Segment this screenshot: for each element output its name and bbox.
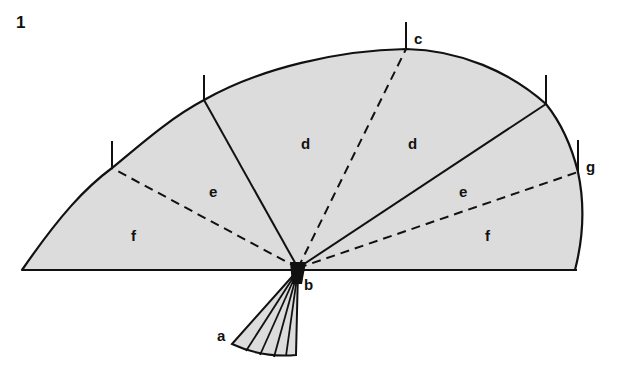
label-c: c (414, 30, 422, 47)
label-e-right: e (459, 183, 467, 200)
label-a: a (217, 327, 226, 344)
label-d-left: d (301, 135, 310, 152)
diagram: 1 c g b a d d e e f f (0, 0, 617, 365)
main-sector (22, 49, 582, 270)
label-g: g (586, 158, 595, 175)
label-d-right: d (408, 135, 417, 152)
label-e-left: e (209, 183, 217, 200)
label-b: b (304, 276, 313, 293)
figure-number: 1 (16, 13, 25, 32)
